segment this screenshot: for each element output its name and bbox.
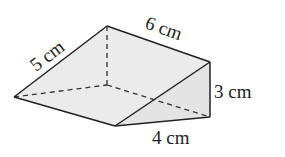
label-3cm: 3 cm [214, 81, 252, 102]
prism-diagram: 5 cm 6 cm 3 cm 4 cm [0, 0, 285, 157]
label-4cm: 4 cm [152, 127, 190, 148]
label-6cm: 6 cm [143, 12, 185, 44]
